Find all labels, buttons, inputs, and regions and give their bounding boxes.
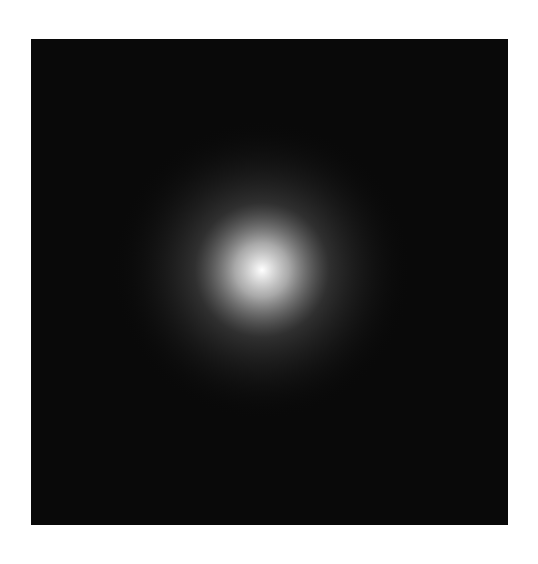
plot-panel bbox=[31, 39, 508, 525]
spiral-fallback-layer bbox=[31, 39, 508, 525]
figure-root bbox=[0, 0, 538, 564]
